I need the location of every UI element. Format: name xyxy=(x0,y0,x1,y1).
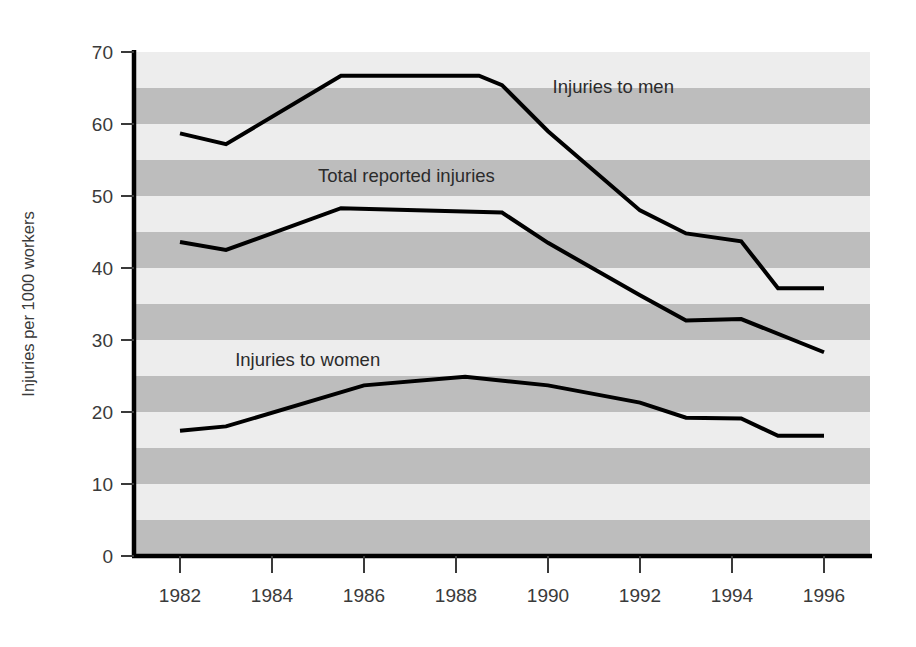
y-axis-ticks: 010203040506070 xyxy=(92,42,134,567)
y-tick-label: 60 xyxy=(92,114,113,135)
grid-band xyxy=(134,448,870,484)
grid-band xyxy=(134,520,870,556)
grid-band xyxy=(134,88,870,124)
x-axis-ticks: 19821984198619881990199219941996 xyxy=(159,556,845,606)
series-label: Injuries to women xyxy=(235,349,380,370)
x-tick-label: 1990 xyxy=(527,585,569,606)
x-tick-label: 1992 xyxy=(619,585,661,606)
grid-band xyxy=(134,412,870,448)
grid-band xyxy=(134,124,870,160)
series-label: Injuries to men xyxy=(553,76,674,97)
x-tick-label: 1996 xyxy=(803,585,845,606)
x-tick-label: 1986 xyxy=(343,585,385,606)
y-tick-label: 50 xyxy=(92,186,113,207)
y-tick-label: 0 xyxy=(102,546,113,567)
x-tick-label: 1988 xyxy=(435,585,477,606)
y-tick-label: 40 xyxy=(92,258,113,279)
x-tick-label: 1994 xyxy=(711,585,754,606)
x-tick-label: 1982 xyxy=(159,585,201,606)
grid-band xyxy=(134,304,870,340)
chart-figure: 010203040506070 198219841986198819901992… xyxy=(0,0,916,647)
y-tick-label: 30 xyxy=(92,330,113,351)
grid-band xyxy=(134,484,870,520)
y-axis-title-text: Injuries per 1000 workers xyxy=(19,211,37,396)
grid-band xyxy=(134,268,870,304)
line-chart: 010203040506070 198219841986198819901992… xyxy=(0,0,916,647)
series-label: Total reported injuries xyxy=(318,165,495,186)
grid-band xyxy=(134,52,870,88)
y-tick-label: 20 xyxy=(92,402,113,423)
y-tick-label: 70 xyxy=(92,42,113,63)
x-tick-label: 1984 xyxy=(251,585,294,606)
y-tick-label: 10 xyxy=(92,474,113,495)
plot-background-bands xyxy=(134,52,870,556)
y-axis-title: Injuries per 1000 workers xyxy=(19,211,37,396)
grid-band xyxy=(134,160,870,196)
